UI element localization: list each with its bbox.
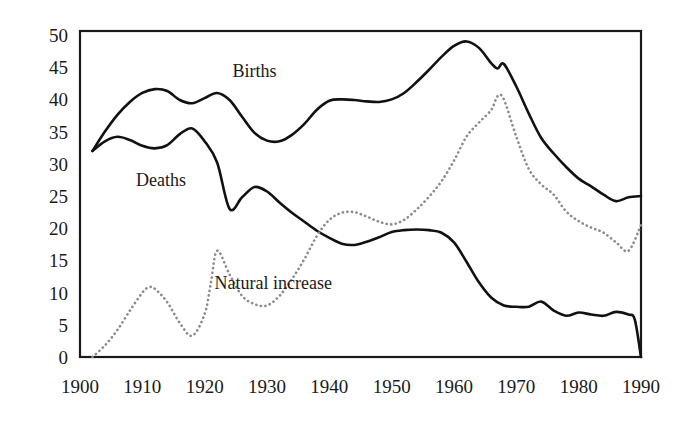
y-tick-45: 45 xyxy=(49,57,68,78)
x-tick-1950: 1950 xyxy=(373,376,411,397)
demographic-transition-chart: 05101520253035404550 1900191019201930194… xyxy=(0,0,689,424)
series-annotations: BirthsDeathsNatural increase xyxy=(136,61,332,294)
y-tick-15: 15 xyxy=(49,250,68,271)
series-line-natural-increase xyxy=(92,95,641,357)
series-line-deaths xyxy=(92,128,641,357)
y-tick-20: 20 xyxy=(49,218,68,239)
y-tick-40: 40 xyxy=(49,89,68,110)
x-tick-1980: 1980 xyxy=(560,376,598,397)
series-curves xyxy=(92,41,641,357)
x-tick-1900: 1900 xyxy=(61,376,99,397)
y-tick-35: 35 xyxy=(49,122,68,143)
x-tick-1940: 1940 xyxy=(310,376,348,397)
deaths-label: Deaths xyxy=(136,170,186,190)
x-tick-1920: 1920 xyxy=(186,376,224,397)
x-tick-1970: 1970 xyxy=(497,376,535,397)
y-tick-10: 10 xyxy=(49,283,68,304)
y-tick-25: 25 xyxy=(49,186,68,207)
x-axis-tick-labels: 1900191019201930194019501960197019801990 xyxy=(61,376,660,397)
natural-increase-label: Natural increase xyxy=(215,273,332,293)
y-tick-30: 30 xyxy=(49,154,68,175)
y-axis-tick-labels: 05101520253035404550 xyxy=(49,25,68,368)
x-tick-1960: 1960 xyxy=(435,376,473,397)
x-tick-1910: 1910 xyxy=(123,376,161,397)
y-tick-5: 5 xyxy=(59,315,69,336)
y-tick-50: 50 xyxy=(49,25,68,46)
births-label: Births xyxy=(233,61,277,81)
plot-area-frame xyxy=(80,31,641,357)
y-tick-0: 0 xyxy=(59,347,69,368)
x-tick-1990: 1990 xyxy=(622,376,660,397)
chart-page: 05101520253035404550 1900191019201930194… xyxy=(0,0,689,424)
x-tick-1930: 1930 xyxy=(248,376,286,397)
